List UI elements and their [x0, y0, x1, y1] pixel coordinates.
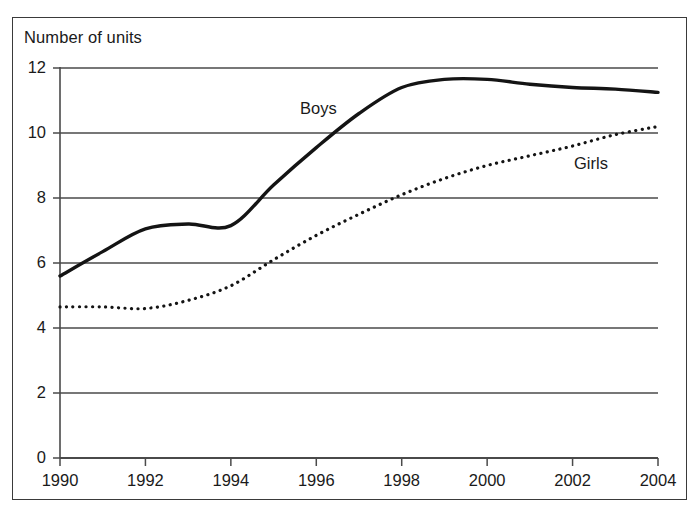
y-tick-label-2: 2 [12, 383, 46, 402]
y-tick-label-10: 10 [12, 123, 46, 142]
y-tick-label-12: 12 [12, 58, 46, 77]
y-tick-label-0: 0 [12, 448, 46, 467]
y-tick-marks-group [53, 68, 60, 458]
series-label-girls: Girls [574, 154, 608, 173]
plot-area [0, 0, 700, 520]
x-tick-label-1990: 1990 [30, 471, 90, 490]
series-paths-group [60, 79, 658, 309]
series-line-girls [60, 127, 658, 309]
series-line-boys [60, 79, 658, 276]
x-tick-label-2000: 2000 [457, 471, 517, 490]
series-label-boys: Boys [300, 99, 337, 118]
gridlines-group [60, 67, 658, 458]
x-tick-label-1998: 1998 [372, 471, 432, 490]
x-tick-label-2004: 2004 [628, 471, 688, 490]
x-tick-label-1996: 1996 [286, 471, 346, 490]
y-tick-label-6: 6 [12, 253, 46, 272]
chart-figure: Number of units 024681012 19901992199419… [0, 0, 700, 520]
x-tick-label-1992: 1992 [115, 471, 175, 490]
x-tick-label-2002: 2002 [543, 471, 603, 490]
y-tick-label-4: 4 [12, 318, 46, 337]
x-tick-label-1994: 1994 [201, 471, 261, 490]
x-tick-marks-group [60, 458, 658, 466]
y-tick-label-8: 8 [12, 188, 46, 207]
